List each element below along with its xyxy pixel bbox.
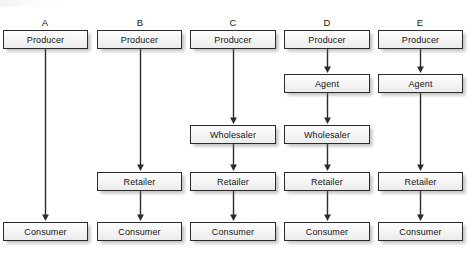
node-label: Producer <box>27 35 64 45</box>
node-label: Retailer <box>311 177 343 187</box>
node-d-producer: Producer <box>284 30 370 49</box>
arrow-producer-to-retailer <box>136 49 145 171</box>
node-label: Agent <box>408 79 432 89</box>
node-label: Producer <box>402 35 439 45</box>
arrow-producer-to-agent <box>323 49 332 73</box>
arrow-wholesaler-to-retailer <box>323 144 332 171</box>
arrow-retailer-to-consumer <box>136 191 145 221</box>
node-label: Retailer <box>405 177 437 187</box>
node-a-consumer: Consumer <box>3 222 88 241</box>
node-label: Consumer <box>399 227 441 237</box>
arrow-agent-to-wholesaler <box>323 93 332 124</box>
arrow-producer-to-agent <box>416 49 425 73</box>
node-c-wholesaler: Wholesaler <box>190 125 276 144</box>
column-letter-d: D <box>297 18 357 28</box>
node-label: Retailer <box>217 177 249 187</box>
node-label: Producer <box>308 35 345 45</box>
node-d-consumer: Consumer <box>284 222 370 241</box>
node-b-producer: Producer <box>97 30 182 49</box>
node-b-retailer: Retailer <box>97 172 182 191</box>
node-d-agent: Agent <box>284 74 370 93</box>
arrow-producer-to-consumer <box>41 49 50 221</box>
node-label: Producer <box>121 35 158 45</box>
column-letter-c: C <box>203 18 263 28</box>
node-e-consumer: Consumer <box>378 222 463 241</box>
arrow-wholesaler-to-retailer <box>229 144 238 171</box>
channel-structure-diagram: AProducerConsumerBProducerRetailerConsum… <box>0 0 473 259</box>
node-label: Consumer <box>306 227 348 237</box>
arrow-agent-to-retailer <box>416 93 425 171</box>
node-a-producer: Producer <box>3 30 88 49</box>
node-label: Wholesaler <box>210 130 256 140</box>
arrow-producer-to-wholesaler <box>229 49 238 124</box>
node-label: Retailer <box>124 177 156 187</box>
node-e-agent: Agent <box>378 74 463 93</box>
node-label: Consumer <box>118 227 160 237</box>
node-b-consumer: Consumer <box>97 222 182 241</box>
node-c-producer: Producer <box>190 30 276 49</box>
node-label: Consumer <box>212 227 254 237</box>
node-e-producer: Producer <box>378 30 463 49</box>
node-label: Wholesaler <box>304 130 350 140</box>
column-letter-a: A <box>15 18 75 28</box>
node-e-retailer: Retailer <box>378 172 463 191</box>
node-d-wholesaler: Wholesaler <box>284 125 370 144</box>
scan-artifact <box>0 0 62 7</box>
arrow-retailer-to-consumer <box>416 191 425 221</box>
node-c-retailer: Retailer <box>190 172 276 191</box>
node-d-retailer: Retailer <box>284 172 370 191</box>
arrow-retailer-to-consumer <box>229 191 238 221</box>
column-letter-e: E <box>390 18 450 28</box>
arrow-retailer-to-consumer <box>323 191 332 221</box>
node-c-consumer: Consumer <box>190 222 276 241</box>
node-label: Consumer <box>24 227 66 237</box>
node-label: Producer <box>214 35 251 45</box>
column-letter-b: B <box>110 18 170 28</box>
node-label: Agent <box>315 79 339 89</box>
